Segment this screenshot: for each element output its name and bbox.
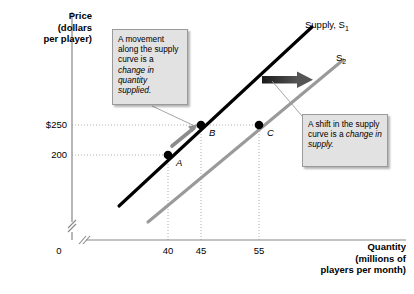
x-axis-title-line-2: (millions of (280, 253, 406, 265)
callout-movement-along-supply-curve: A movement along the supply curve is a c… (112, 29, 188, 105)
x-axis-title-line-3: players per month) (280, 264, 406, 276)
x-tick-label-40: 40 (156, 245, 180, 256)
point-label-b: B (209, 127, 215, 138)
y-tick-label-250: $250 (22, 119, 67, 130)
supply-curve-figure: Price (dollars per player) Quantity (mil… (0, 0, 414, 294)
curve-label-s1: Supply, S1 (305, 19, 349, 32)
supply-shift-arrow (262, 72, 313, 89)
y-axis-title-line-2: (dollars (14, 22, 92, 34)
x-axis-title-line-1: Quantity (280, 241, 406, 253)
point-label-a: A (176, 157, 182, 168)
curve-label-s1-subscript: 1 (345, 25, 349, 32)
x-axis-break-mark-1 (79, 236, 86, 244)
callout-movement-lead-text: A movement along the supply curve is a (118, 34, 178, 64)
y-axis-title-line-3: per player) (14, 33, 92, 45)
y-axis-title-line-1: Price (14, 10, 92, 22)
point-label-c: C (267, 127, 274, 138)
point-marker-c (255, 121, 264, 130)
curve-label-s1-text: Supply, S (305, 19, 345, 30)
y-axis-break-mark-1 (68, 224, 76, 232)
curve-label-s2-subscript: 2 (342, 58, 346, 65)
x-tick-label-45: 45 (189, 245, 213, 256)
y-axis-title: Price (dollars per player) (14, 10, 92, 45)
x-tick-label-55: 55 (247, 245, 271, 256)
callout-shift-in-supply-curve: A shift in the supply curve is a change … (302, 114, 388, 167)
gridlines (72, 125, 259, 240)
axis-break-marks (68, 220, 90, 244)
y-tick-label-200: 200 (22, 149, 67, 160)
point-marker-b (197, 121, 206, 130)
callout-movement-emphasis-text: change in quantity supplied. (118, 65, 154, 95)
curve-label-s2: S2 (336, 52, 346, 65)
x-axis-title: Quantity (millions of players per month) (280, 241, 406, 276)
point-marker-a (164, 151, 173, 160)
origin-label: 0 (52, 245, 66, 256)
